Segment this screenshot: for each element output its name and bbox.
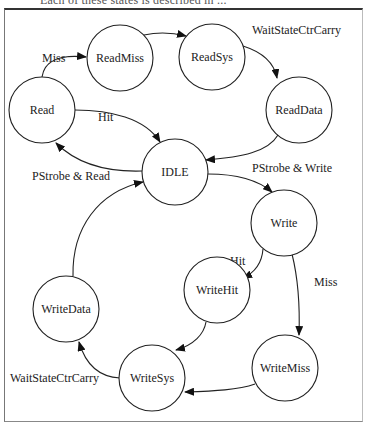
edge-write-writemiss <box>292 254 299 335</box>
node-label-writehit: WriteHit <box>196 283 239 297</box>
node-label-idle: IDLE <box>161 165 188 179</box>
edge-label-read-hit: Hit <box>98 110 114 124</box>
node-label-readsys: ReadSys <box>191 50 233 64</box>
node-write: Write <box>251 190 317 256</box>
edge-readdata-idle <box>206 135 278 160</box>
edge-label-write-miss: Miss <box>314 275 338 289</box>
node-label-writesys: WriteSys <box>130 371 175 385</box>
edge-writehit-writesys <box>176 322 206 350</box>
edge-idle-read <box>56 143 142 171</box>
node-label-readdata: ReadData <box>275 103 323 117</box>
state-diagram: Miss WaitStateCtrCarry Hit PStrobe & Rea… <box>0 0 367 425</box>
node-label-write: Write <box>271 216 298 230</box>
node-label-read: Read <box>30 103 55 117</box>
node-writehit: WriteHit <box>184 257 250 323</box>
node-writesys: WriteSys <box>119 345 185 411</box>
edge-writedata-idle <box>73 182 143 276</box>
edge-readmiss-readsys <box>144 33 186 36</box>
node-idle: IDLE <box>142 139 208 205</box>
node-readmiss: ReadMiss <box>87 25 153 91</box>
edge-read-idle <box>75 110 160 142</box>
edge-label-read-miss: Miss <box>42 51 66 65</box>
node-label-readmiss: ReadMiss <box>96 51 144 65</box>
node-readsys: ReadSys <box>179 24 245 90</box>
edge-label-readsys-wait: WaitStateCtrCarry <box>252 23 341 37</box>
node-writemiss: WriteMiss <box>252 335 318 401</box>
node-label-writedata: WriteData <box>41 302 91 316</box>
node-readdata: ReadData <box>266 77 332 143</box>
node-read: Read <box>9 77 75 143</box>
edge-label-writesys-wait: WaitStateCtrCarry <box>10 371 99 385</box>
node-label-writemiss: WriteMiss <box>260 361 311 375</box>
node-writedata: WriteData <box>33 276 99 342</box>
edge-writemiss-writesys <box>185 384 255 392</box>
edge-readsys-readdata <box>243 46 277 78</box>
edge-label-idle-read: PStrobe & Read <box>32 169 110 183</box>
edge-idle-write <box>208 174 272 192</box>
edge-label-idle-write: PStrobe & Write <box>252 161 332 175</box>
